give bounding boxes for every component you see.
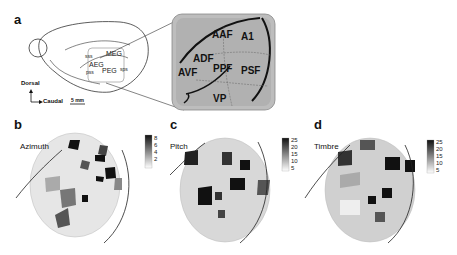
tick: 10	[436, 160, 443, 167]
panel-d-letter: d	[314, 117, 322, 132]
panel-d-title: Timbre	[314, 142, 339, 151]
timbre-colorbar-ticks: 25 20 15 10 5	[436, 139, 443, 174]
tick: 8	[154, 135, 157, 142]
label-peg: PEG	[102, 67, 117, 74]
field-psf: PSF	[241, 65, 260, 76]
azimuth-colorbar	[145, 135, 152, 168]
scale-bar-label: 5 mm	[71, 97, 84, 103]
timbre-colorbar	[427, 140, 434, 173]
panel-c-letter: c	[170, 117, 177, 132]
tick: 15	[291, 151, 298, 158]
axis-dorsal: Dorsal	[21, 80, 40, 86]
label-sps: sps	[120, 66, 128, 72]
label-meg: MEG	[106, 50, 122, 57]
field-ppf: PPF	[213, 63, 232, 74]
label-sss: sss	[85, 53, 93, 59]
panel-b-letter: b	[14, 117, 22, 132]
panel-c-title: Pitch	[170, 142, 188, 151]
brain-bulb	[29, 39, 47, 57]
pitch-map	[170, 138, 270, 243]
tick: 25	[291, 137, 298, 144]
timbre-map	[305, 138, 415, 243]
label-pss: pss	[86, 69, 94, 75]
field-avf: AVF	[178, 67, 197, 78]
brain-outline	[39, 22, 148, 93]
panel-b-title: Azimuth	[20, 142, 49, 151]
tick: 15	[436, 153, 443, 160]
tick: 4	[154, 149, 157, 156]
tick: 5	[291, 165, 298, 172]
field-vp: VP	[213, 93, 226, 104]
axis-caudal: Caudal	[43, 98, 63, 104]
tick: 6	[154, 142, 157, 149]
tick: 20	[436, 146, 443, 153]
tick: 10	[291, 158, 298, 165]
tick: 25	[436, 139, 443, 146]
tick: 5	[436, 167, 443, 174]
tick: 2	[154, 156, 157, 163]
field-aaf: AAF	[212, 29, 233, 40]
azimuth-colorbar-ticks: 8 6 4 2	[154, 135, 157, 163]
pitch-colorbar	[282, 138, 289, 171]
field-adf: ADF	[193, 53, 214, 64]
field-a1: A1	[241, 31, 254, 42]
pitch-colorbar-ticks: 25 20 15 10 5	[291, 137, 298, 172]
tick: 20	[291, 144, 298, 151]
